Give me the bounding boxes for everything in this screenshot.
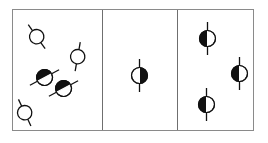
figure-canvas bbox=[0, 0, 268, 143]
particle-filled-6 bbox=[186, 84, 227, 125]
particle-filled-3 bbox=[119, 55, 160, 96]
